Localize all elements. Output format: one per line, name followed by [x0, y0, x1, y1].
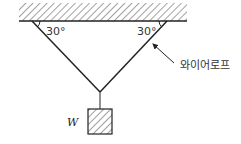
right-angle-arc: [159, 21, 162, 27]
ceiling: [19, 3, 187, 21]
left-rope: [32, 21, 100, 92]
left-angle-label: 30°: [46, 25, 66, 38]
right-rope: [100, 21, 167, 92]
ceiling-hatch: [19, 3, 187, 21]
left-angle-arc: [38, 21, 41, 27]
weight-label: W: [67, 116, 80, 129]
diagram-canvas: 30° 30° W 와이어로프: [0, 0, 241, 144]
rope-leader-arrow: [153, 44, 174, 63]
right-angle-label: 30°: [137, 25, 157, 38]
rope-label: 와이어로프: [180, 59, 230, 72]
weight-box: [88, 109, 112, 134]
